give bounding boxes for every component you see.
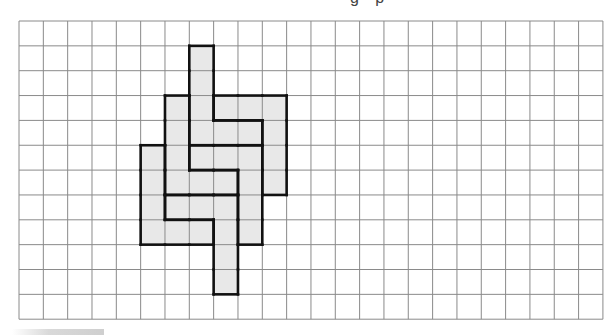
polyomino-grid (0, 0, 615, 335)
piece-cell-b (214, 96, 238, 121)
piece-cell-e (141, 170, 165, 195)
grid-lines (19, 21, 603, 319)
piece-cell-c (238, 220, 262, 245)
piece-cell-d (214, 170, 238, 195)
piece-cell-d (189, 170, 213, 195)
piece-cell-e (141, 195, 165, 220)
piece-cell-c (238, 170, 262, 195)
piece-cell-a (189, 120, 213, 145)
piece-cell-f (165, 195, 189, 220)
piece-cell-c (238, 195, 262, 220)
diagram-canvas: g p (0, 0, 615, 335)
piece-cell-f (214, 195, 238, 220)
piece-cell-c (189, 145, 213, 170)
piece-cell-f (214, 270, 238, 295)
piece-cell-b (262, 145, 286, 170)
piece-cell-c (238, 145, 262, 170)
piece-cell-f (189, 195, 213, 220)
piece-cell-d (165, 170, 189, 195)
footer-bar (12, 329, 104, 335)
piece-cell-e (165, 220, 189, 245)
piece-cell-a (189, 96, 213, 121)
piece-cell-e (141, 220, 165, 245)
piece-cell-b (262, 96, 286, 121)
piece-cell-a (214, 120, 238, 145)
piece-cell-b (238, 96, 262, 121)
piece-cell-e (141, 145, 165, 170)
piece-cell-a (189, 71, 213, 96)
piece-cell-f (214, 245, 238, 270)
piece-cell-a (189, 46, 213, 71)
piece-cell-c (214, 145, 238, 170)
piece-cell-b (262, 120, 286, 145)
piece-cell-d (165, 145, 189, 170)
piece-cell-a (238, 120, 262, 145)
piece-cell-f (214, 220, 238, 245)
piece-cell-d (165, 96, 189, 121)
piece-cell-d (165, 120, 189, 145)
piece-cell-e (189, 220, 213, 245)
piece-cell-b (262, 170, 286, 195)
